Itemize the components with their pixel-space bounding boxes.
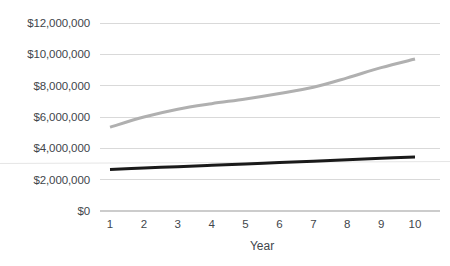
stray-rule (0, 162, 450, 164)
x-tick-label: 4 (197, 218, 227, 230)
y-tick-label: $6,000,000 (33, 111, 90, 123)
x-axis-title: Year (202, 240, 322, 253)
gridlines (100, 23, 440, 180)
y-tick-label: $8,000,000 (33, 80, 90, 92)
y-tick-label: $2,000,000 (33, 174, 90, 186)
x-tick-label: 5 (231, 218, 261, 230)
y-tick-label: $12,000,000 (27, 17, 90, 29)
line-chart: $12,000,000$10,000,000$8,000,000$6,000,0… (0, 0, 450, 266)
y-tick-label: $10,000,000 (27, 48, 90, 60)
x-tick-label: 8 (332, 218, 362, 230)
x-tick-label: 1 (95, 218, 125, 230)
x-tick-label: 3 (163, 218, 193, 230)
x-tick-label: 6 (264, 218, 294, 230)
y-tick-label: $4,000,000 (33, 142, 90, 154)
y-tick-label: $0 (77, 205, 90, 217)
x-tick-label: 7 (298, 218, 328, 230)
stray-horizontal-rule (0, 162, 450, 164)
x-tick-label: 9 (366, 218, 396, 230)
x-tick-label: 10 (400, 218, 430, 230)
x-tick-label: 2 (129, 218, 159, 230)
series-lines (110, 59, 415, 169)
